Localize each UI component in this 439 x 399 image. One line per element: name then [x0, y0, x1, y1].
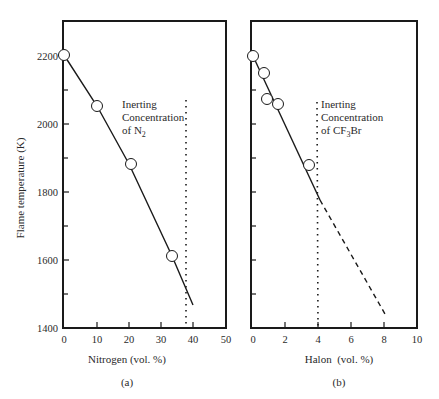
panel-a-annotation-line2: Concentration	[122, 111, 185, 123]
data-point	[248, 51, 259, 62]
ytick-2200: 2200	[37, 51, 58, 62]
panel-a: 2200 2000 1800 1600 1400 0 10 20 30 40 5…	[37, 21, 231, 389]
figure-canvas: 2200 2000 1800 1600 1400 0 10 20 30 40 5…	[0, 0, 439, 399]
panel-a-caption: (a)	[121, 376, 134, 389]
xtick-b-0: 0	[250, 334, 255, 345]
xtick-b-8: 8	[381, 334, 386, 345]
panel-b-xticks	[285, 322, 384, 327]
panel-b-inerting-line	[317, 102, 318, 327]
xtick-a-10: 10	[92, 334, 103, 345]
panel-b-caption: (b)	[333, 376, 346, 389]
xtick-a-20: 20	[124, 334, 135, 345]
xtick-a-0: 0	[61, 334, 66, 345]
panel-b-yticks	[252, 56, 256, 294]
data-point	[259, 68, 270, 79]
ytick-1400: 1400	[37, 323, 58, 334]
xtick-a-40: 40	[188, 334, 199, 345]
data-point	[262, 94, 273, 105]
ytick-1600: 1600	[37, 255, 58, 266]
data-point	[126, 159, 137, 170]
data-point	[167, 251, 178, 262]
ytick-1800: 1800	[37, 187, 58, 198]
panel-b-annotation-line3: of CF3Br	[321, 124, 362, 139]
panel-a-annotation-line1: Inerting	[122, 98, 157, 110]
y-axis-title: Flame temperature (K)	[14, 137, 27, 238]
panel-a-yticks	[64, 56, 69, 294]
xtick-b-6: 6	[348, 334, 353, 345]
panel-b-annotation-line2: Concentration	[321, 111, 384, 123]
panel-b-xlabel: Halon (vol. %)	[305, 353, 374, 366]
panel-a-xlabel: Nitrogen (vol. %)	[88, 353, 166, 366]
ytick-2000: 2000	[37, 119, 58, 130]
xtick-b-2: 2	[282, 334, 287, 345]
data-point	[304, 160, 315, 171]
panel-b-extrapolation-line	[320, 200, 385, 314]
panel-b-markers	[248, 51, 315, 171]
xtick-a-30: 30	[156, 334, 167, 345]
panel-b-annotation-line1: Inerting	[321, 98, 356, 110]
xtick-b-4: 4	[315, 334, 321, 345]
xtick-b-10: 10	[412, 334, 423, 345]
panel-a-annotation-line3: of N2	[122, 124, 146, 139]
data-point	[92, 101, 103, 112]
panel-a-curve	[64, 55, 193, 305]
panel-b-frame	[251, 21, 417, 328]
panel-b: 0 2 4 6 8 10 Halon (vol. %) (b) Inerting…	[248, 21, 423, 389]
panel-a-frame	[63, 21, 226, 328]
panel-a-xticks	[97, 322, 193, 327]
data-point	[59, 50, 70, 61]
data-point	[273, 99, 284, 110]
xtick-a-50: 50	[221, 334, 232, 345]
